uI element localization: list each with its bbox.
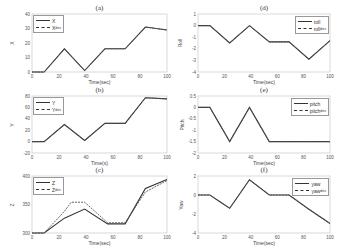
svg-text:350: 350 bbox=[22, 202, 30, 207]
panel-e: (e)020406080100-2-1.5-1-0.500.5Time(sec)… bbox=[198, 96, 330, 153]
svg-text:20: 20 bbox=[25, 41, 31, 46]
y-axis-label: Pitch bbox=[179, 119, 185, 130]
x-axis-label: Time(sec) bbox=[198, 79, 330, 85]
legend: rollrolldes bbox=[295, 16, 329, 34]
legend: pitchpitchdes bbox=[291, 98, 329, 116]
legend-entry-actual: roll bbox=[298, 18, 326, 25]
svg-text:-4: -4 bbox=[192, 70, 196, 75]
y-axis-label: Yaw bbox=[178, 200, 184, 209]
svg-text:1: 1 bbox=[193, 12, 196, 17]
series-x-des bbox=[32, 27, 167, 72]
legend: yawyawdes bbox=[292, 178, 329, 196]
svg-text:-20: -20 bbox=[23, 151, 30, 156]
panel-d: (d)020406080100-4-3-2-101Time(sec)Rollro… bbox=[198, 14, 330, 72]
svg-text:0: 0 bbox=[193, 105, 196, 110]
svg-text:30: 30 bbox=[25, 26, 31, 31]
svg-text:-1: -1 bbox=[192, 35, 196, 40]
y-axis-label: Z bbox=[9, 203, 15, 206]
legend: XXdes bbox=[33, 15, 64, 33]
svg-text:-3: -3 bbox=[192, 58, 196, 63]
y-axis-label: Roll bbox=[177, 39, 183, 48]
svg-text:0: 0 bbox=[27, 139, 30, 144]
svg-text:20: 20 bbox=[25, 128, 31, 133]
panel-title: (a) bbox=[32, 4, 167, 12]
svg-text:0.5: 0.5 bbox=[190, 94, 197, 99]
legend-entry-desired: Xdes bbox=[36, 24, 61, 31]
x-axis-label: Time(sec) bbox=[32, 240, 167, 246]
svg-text:-2: -2 bbox=[192, 151, 196, 156]
panel-title: (c) bbox=[32, 166, 167, 174]
series-x bbox=[32, 27, 167, 72]
svg-text:-1: -1 bbox=[192, 128, 196, 133]
svg-text:-1.5: -1.5 bbox=[188, 139, 196, 144]
x-axis-label: Time(sec) bbox=[32, 79, 167, 85]
svg-text:-0.5: -0.5 bbox=[188, 116, 196, 121]
svg-text:40: 40 bbox=[25, 12, 31, 17]
svg-text:300: 300 bbox=[22, 231, 30, 236]
panel-title: (e) bbox=[198, 86, 330, 94]
legend-entry-desired: rolldes bbox=[298, 25, 326, 32]
panel-b: (b)020406080100-20020406080Time(s)YYYdes bbox=[32, 96, 167, 153]
panel-title: (d) bbox=[198, 4, 330, 12]
svg-text:-4: -4 bbox=[192, 231, 196, 236]
svg-text:40: 40 bbox=[25, 116, 31, 121]
legend-entry-desired: Ydes bbox=[36, 106, 61, 113]
panel-f: (f)020406080100-4-202Time(sec)Yawyawyawd… bbox=[198, 176, 330, 233]
y-axis-label: Y bbox=[9, 123, 15, 126]
legend-entry-actual: pitch bbox=[294, 100, 326, 107]
svg-text:-2: -2 bbox=[192, 46, 196, 51]
svg-text:0: 0 bbox=[193, 193, 196, 198]
svg-text:0: 0 bbox=[193, 23, 196, 28]
legend-entry-desired: pitchdes bbox=[294, 107, 326, 114]
legend-entry-actual: Y bbox=[36, 99, 61, 106]
x-axis-label: Time(sec) bbox=[198, 240, 330, 246]
svg-text:10: 10 bbox=[25, 55, 31, 60]
svg-text:400: 400 bbox=[22, 174, 30, 179]
panel-a: (a)020406080100010203040Time(sec)XXXdes bbox=[32, 14, 167, 72]
legend: YYdes bbox=[33, 97, 64, 115]
legend-entry-actual: Z bbox=[36, 179, 61, 186]
svg-text:2: 2 bbox=[193, 174, 196, 179]
panel-title: (f) bbox=[198, 166, 330, 174]
panel-title: (b) bbox=[32, 86, 167, 94]
legend-entry-desired: yawdes bbox=[295, 187, 326, 194]
legend-entry-actual: X bbox=[36, 17, 61, 24]
svg-text:-2: -2 bbox=[192, 212, 196, 217]
legend: ZZdes bbox=[33, 177, 64, 195]
legend-entry-actual: yaw bbox=[295, 180, 326, 187]
svg-text:80: 80 bbox=[25, 94, 31, 99]
panel-c: (c)020406080100300350400Time(sec)ZZZdes bbox=[32, 176, 167, 233]
y-axis-label: X bbox=[9, 41, 15, 44]
svg-text:60: 60 bbox=[25, 105, 31, 110]
legend-entry-desired: Zdes bbox=[36, 186, 61, 193]
